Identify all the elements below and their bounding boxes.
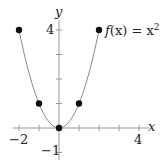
axes <box>13 20 149 160</box>
data-point <box>96 27 102 33</box>
y-tick-label-max: 4 <box>46 22 54 37</box>
x-tick-label-min: −2 <box>9 132 28 147</box>
x-axis-label: x <box>148 119 156 134</box>
x-tick-label-max: 4 <box>134 132 142 147</box>
function-label: f(x) = x2 <box>104 22 160 38</box>
data-point <box>16 27 22 33</box>
chart-canvas: y x −2 4 −1 4 f(x) = x2 <box>0 0 165 167</box>
data-point <box>56 125 62 131</box>
y-axis-label: y <box>54 4 63 19</box>
data-point <box>36 100 42 106</box>
data-point <box>76 100 82 106</box>
y-tick-label-min: −1 <box>41 143 60 158</box>
